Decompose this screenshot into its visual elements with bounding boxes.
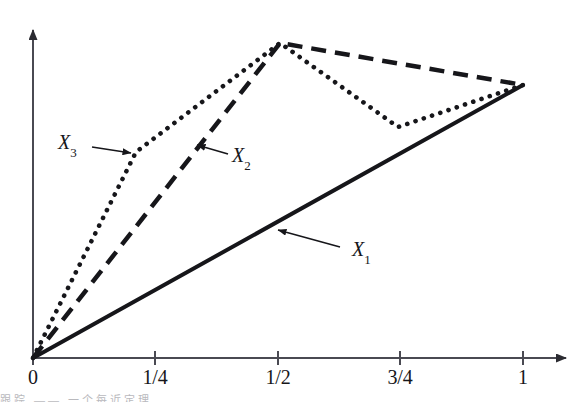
plot-canvas: [0, 0, 581, 402]
series-x2-line: [33, 43, 523, 358]
x-tick-label-3-4: 3/4: [388, 366, 413, 389]
curve-label-x3-subscript: 3: [70, 145, 77, 160]
curve-label-x1-base: X: [352, 238, 364, 260]
x2-leader-arrow: [197, 145, 228, 154]
x3-leader-arrow: [92, 147, 131, 153]
x-tick-label-1-2: 1/2: [266, 366, 291, 389]
series-x1-line: [33, 85, 523, 358]
curve-label-x2-subscript: 2: [244, 158, 251, 173]
page-caption-fragment: 跟踪 —— 一个每近定理: [0, 391, 300, 402]
curve-label-x3: X3: [58, 131, 77, 158]
curve-label-x1-subscript: 1: [364, 252, 371, 267]
series-x3-line: [33, 43, 523, 358]
x1-leader-arrow: [278, 230, 340, 247]
x-tick-label-1: 1: [518, 366, 528, 389]
x-tick-label-1-4: 1/4: [143, 366, 168, 389]
curve-label-x3-base: X: [58, 131, 70, 153]
figure-container: 0 1/4 1/2 3/4 1 X1 X2 X3 跟踪 —— 一个每近定理: [0, 0, 581, 402]
curve-label-x1: X1: [352, 238, 371, 265]
curve-label-x2: X2: [232, 144, 251, 171]
x-tick-label-0: 0: [28, 366, 38, 389]
curve-label-x2-base: X: [232, 144, 244, 166]
